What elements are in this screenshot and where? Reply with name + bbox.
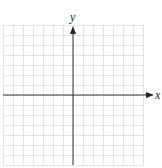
y-axis-label: y [69,10,76,24]
x-axis-arrow-icon [146,92,154,98]
y-axis-arrow-icon [70,26,76,34]
x-axis-label: x [154,88,161,102]
coordinate-plane: x y [0,0,162,168]
